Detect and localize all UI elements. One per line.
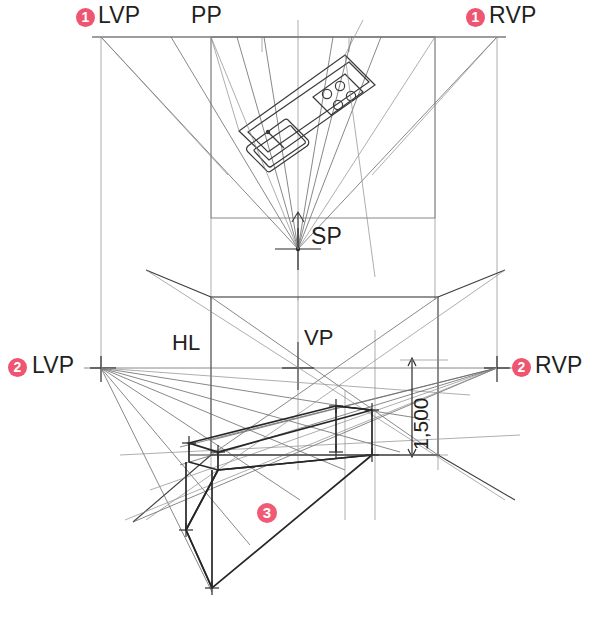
long-construction-2 — [146, 270, 505, 520]
ceiling-recede-left — [146, 270, 211, 297]
badge-one-left: 1 — [76, 8, 95, 27]
label-dimension-1500: 1,500 — [409, 397, 433, 450]
diagram-canvas: .hair{stroke:#8b8b8b;stroke-width:.7;fil… — [0, 0, 592, 626]
label-pp: PP — [191, 4, 222, 27]
label-hl: HL — [172, 332, 201, 354]
label-sp: SP — [311, 225, 342, 248]
rvp2-ray-3 — [180, 368, 497, 465]
plan-construction-b — [298, 37, 435, 249]
lvp2-ray-2 — [101, 368, 400, 452]
label-lvp-1: LVP — [98, 4, 140, 27]
rvp2-ray-6 — [150, 368, 497, 490]
plan-construction-a — [211, 37, 298, 249]
perspective-view-group — [84, 270, 520, 595]
plan-view-group — [92, 20, 506, 368]
floor-recede-right — [438, 455, 515, 500]
long-construction-3 — [120, 435, 520, 455]
label-vp: VP — [304, 327, 334, 349]
plan-construction-e — [211, 37, 239, 131]
rvp2-marker — [484, 356, 510, 382]
label-rvp-2: RVP — [535, 354, 582, 377]
badge-one-right: 1 — [466, 8, 485, 27]
badge-two-right: 2 — [512, 358, 531, 377]
sight-line-2 — [237, 37, 298, 249]
lvp2-ray-1 — [101, 368, 430, 420]
lvp2-ray-4 — [101, 368, 300, 500]
label-lvp-2: LVP — [32, 354, 74, 377]
badge-two-left: 2 — [8, 358, 27, 377]
label-rvp-1: RVP — [489, 4, 536, 27]
plan-diagonal-left — [101, 37, 228, 175]
badge-three: 3 — [257, 503, 277, 523]
perspective-drawing: .hair{stroke:#8b8b8b;stroke-width:.7;fil… — [0, 0, 592, 626]
